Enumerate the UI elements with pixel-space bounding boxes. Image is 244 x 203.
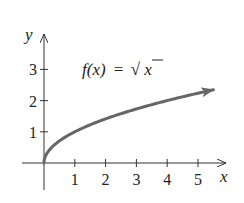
- function-arg: x: [143, 60, 152, 79]
- x-tick-label: 2: [102, 171, 110, 188]
- x-tick-label: 5: [194, 171, 202, 188]
- sqrt-curve: [44, 90, 213, 163]
- function-label: f(x) = √ x: [82, 60, 152, 79]
- function-graph: 12345 123 x y f(x) = √ x: [0, 0, 244, 203]
- function-lhs: f(x): [82, 60, 106, 79]
- sqrt-symbol: √: [131, 60, 141, 79]
- x-tick-label: 3: [132, 171, 140, 188]
- y-ticks: 123: [29, 61, 48, 140]
- y-tick-label: 1: [29, 124, 37, 141]
- y-tick-label: 3: [29, 61, 37, 78]
- x-tick-label: 1: [71, 171, 79, 188]
- x-axis-label: x: [219, 167, 228, 186]
- function-equals: =: [114, 60, 124, 79]
- y-tick-label: 2: [29, 93, 37, 110]
- x-tick-label: 4: [163, 171, 171, 188]
- y-axis-label: y: [23, 25, 33, 44]
